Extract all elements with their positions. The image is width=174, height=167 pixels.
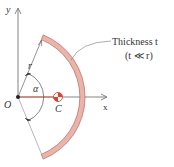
radius-label: r — [28, 60, 32, 71]
x-axis-label: x — [103, 102, 108, 112]
angle-alpha-label: α — [33, 83, 39, 94]
centroid-symbol-icon — [54, 93, 63, 102]
origin-label: O — [4, 99, 11, 110]
y-axis-label: y — [5, 4, 11, 15]
y-axis — [15, 8, 21, 97]
arc-centroid-diagram: y x r α O C Thickness t (t ≪ r) — [0, 0, 174, 167]
lower-bound-line — [18, 97, 42, 154]
origin-point — [16, 95, 20, 99]
thickness-leader-line — [71, 41, 111, 60]
centroid-label: C — [55, 103, 62, 114]
thickness-label: Thickness t — [112, 36, 158, 47]
thickness-condition-label: (t ≪ r) — [125, 50, 153, 62]
